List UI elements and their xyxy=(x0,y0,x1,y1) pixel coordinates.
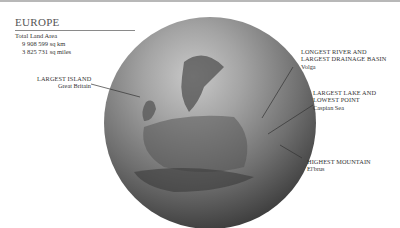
callout-lines xyxy=(0,0,400,228)
callout-value: Great Britain xyxy=(37,82,91,89)
callout-heading: LARGEST LAKE AND xyxy=(313,89,376,96)
callout-heading: LARGEST ISLAND xyxy=(37,75,91,82)
callout-longest-river: LONGEST RIVER AND LARGEST DRAINAGE BASIN… xyxy=(301,48,386,70)
callout-highest-mountain: HIGHEST MOUNTAIN El'brus xyxy=(307,158,371,173)
callout-largest-lake: LARGEST LAKE AND LOWEST POINT Caspian Se… xyxy=(313,89,376,111)
callout-value: Caspian Sea xyxy=(313,104,376,111)
callout-value: Volga xyxy=(301,63,386,70)
callout-value: El'brus xyxy=(307,165,371,172)
callout-heading: LARGEST DRAINAGE BASIN xyxy=(301,55,386,62)
callout-heading: LOWEST POINT xyxy=(313,96,376,103)
callout-heading: LONGEST RIVER AND xyxy=(301,48,386,55)
callout-heading: HIGHEST MOUNTAIN xyxy=(307,158,371,165)
callout-largest-island: LARGEST ISLAND Great Britain xyxy=(37,75,91,90)
